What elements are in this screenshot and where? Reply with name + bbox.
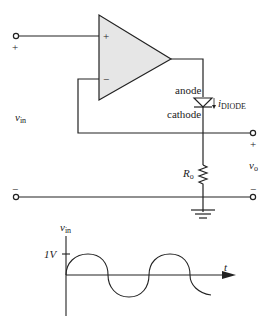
output-plus-terminal [250, 130, 255, 135]
input-voltage-label: vin [15, 112, 26, 126]
cathode-label: cathode [167, 109, 201, 120]
input-plus-label: + [12, 42, 18, 53]
graph-y-label: vin [60, 222, 71, 236]
amplitude-label: 1V [44, 249, 56, 260]
resistor-label: Ro [183, 168, 194, 182]
diode-symbol [194, 98, 212, 107]
opamp-triangle [99, 15, 171, 100]
input-plus-terminal [13, 33, 18, 38]
diode-current-label: iDIODE [218, 98, 246, 112]
opamp-minus-sign: − [103, 74, 109, 85]
anode-label: anode [175, 85, 201, 96]
resistor-symbol [199, 165, 207, 212]
circuit-diagram [0, 0, 269, 326]
output-plus-label: + [250, 139, 256, 150]
output-minus-label: − [250, 184, 256, 195]
opamp-plus-sign: + [103, 31, 109, 42]
output-minus-terminal [250, 194, 255, 199]
input-minus-label: − [12, 184, 18, 195]
graph-x-label: t [224, 262, 227, 273]
input-minus-terminal [13, 194, 18, 199]
output-voltage-label: vo [249, 160, 258, 174]
